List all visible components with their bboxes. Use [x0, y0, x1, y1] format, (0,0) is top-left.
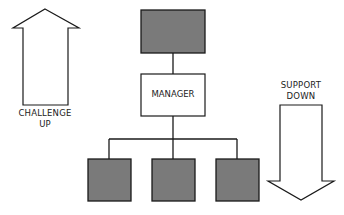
support-down-arrow-icon	[268, 105, 334, 200]
subordinate-box-3	[216, 159, 259, 201]
challenge-label-line2: UP	[0, 119, 90, 130]
manager-label: MANAGER	[141, 89, 205, 99]
support-label-line1: SUPPORT	[262, 80, 340, 91]
support-label-line2: DOWN	[262, 91, 340, 102]
top-box	[141, 10, 205, 53]
subordinate-box-2	[152, 159, 195, 201]
challenge-label-line1: CHALLENGE	[0, 108, 90, 119]
challenge-up-label: CHALLENGE UP	[0, 108, 90, 130]
support-down-label: SUPPORT DOWN	[262, 80, 340, 102]
subordinate-box-1	[88, 159, 131, 201]
challenge-up-arrow-icon	[13, 9, 79, 105]
